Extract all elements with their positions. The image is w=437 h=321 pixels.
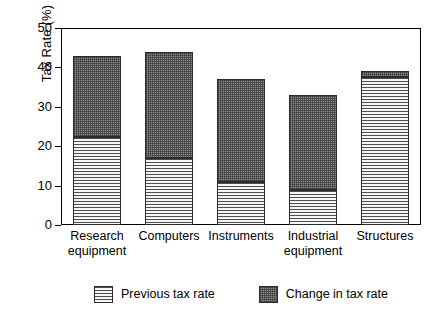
bar-segment-previous-tax-rate[interactable] bbox=[217, 182, 265, 225]
y-axis-tick-label: 50 bbox=[14, 20, 52, 35]
y-axis-tick-label: 0 bbox=[14, 217, 52, 232]
bar-segment-change-in-tax-rate[interactable] bbox=[145, 52, 193, 158]
bar-segment-change-in-tax-rate[interactable] bbox=[73, 56, 121, 138]
y-axis-tick-label: 10 bbox=[14, 178, 52, 193]
bar-group[interactable] bbox=[145, 52, 193, 225]
legend-swatch-icon bbox=[94, 286, 113, 303]
x-axis-label: Structures bbox=[342, 229, 428, 244]
bars-layer bbox=[61, 28, 421, 225]
bar-segment-previous-tax-rate[interactable] bbox=[289, 190, 337, 225]
y-axis-tick-label: 20 bbox=[14, 138, 52, 153]
legend-swatch-icon bbox=[259, 286, 278, 303]
bar-group[interactable] bbox=[289, 95, 337, 225]
x-axis-label-line: equipment bbox=[54, 244, 140, 259]
bar-segment-change-in-tax-rate[interactable] bbox=[217, 79, 265, 182]
bar-group[interactable] bbox=[73, 56, 121, 225]
bar-segment-change-in-tax-rate[interactable] bbox=[361, 71, 409, 77]
legend-item[interactable]: Change in tax rate bbox=[259, 286, 388, 303]
y-axis-tick-mark bbox=[55, 225, 61, 226]
legend-item-label: Previous tax rate bbox=[121, 287, 215, 301]
bar-group[interactable] bbox=[217, 79, 265, 225]
bar-segment-previous-tax-rate[interactable] bbox=[73, 137, 121, 225]
legend-item[interactable]: Previous tax rate bbox=[94, 286, 215, 303]
bar-segment-change-in-tax-rate[interactable] bbox=[289, 95, 337, 190]
bar-group[interactable] bbox=[361, 71, 409, 225]
bar-segment-previous-tax-rate[interactable] bbox=[145, 158, 193, 225]
y-axis-tick-label: 30 bbox=[14, 99, 52, 114]
tax-rate-stacked-bar-chart: Tax Rate (%) 01020304050 Researchequipme… bbox=[0, 0, 437, 321]
y-axis-tick-label: 40 bbox=[14, 59, 52, 74]
chart-legend: Previous tax rateChange in tax rate bbox=[61, 281, 421, 307]
bar-segment-previous-tax-rate[interactable] bbox=[361, 77, 409, 225]
x-axis-label-line: equipment bbox=[270, 244, 356, 259]
x-axis-labels: ResearchequipmentComputersInstrumentsInd… bbox=[61, 229, 421, 273]
legend-item-label: Change in tax rate bbox=[286, 287, 388, 301]
x-axis-label-line: Structures bbox=[342, 229, 428, 244]
